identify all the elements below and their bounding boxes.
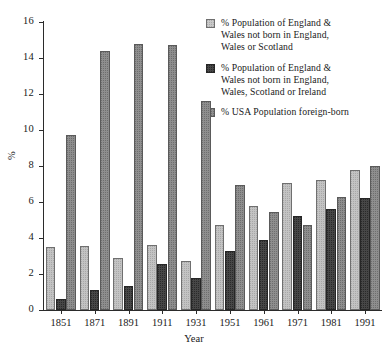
x-tick-mark	[95, 310, 96, 314]
x-tick-mark	[162, 310, 163, 314]
bar	[225, 251, 235, 310]
x-tick-label: 1961	[247, 316, 281, 329]
bar	[157, 264, 167, 310]
y-tick-mark	[39, 94, 43, 95]
bar	[168, 45, 178, 310]
x-tick-label: 1931	[179, 316, 213, 329]
x-tick-label: 1971	[281, 316, 315, 329]
legend-label: % Population of England &Wales not born …	[221, 62, 331, 99]
y-tick-label: 10	[23, 123, 34, 135]
y-tick-label: 14	[23, 51, 34, 63]
x-tick-mark	[331, 310, 332, 314]
x-tick-mark	[129, 310, 130, 314]
x-tick-label: 1891	[112, 316, 146, 329]
x-tick-label: 1871	[78, 316, 112, 329]
legend-item[interactable]: % Population of England &Wales not born …	[206, 17, 386, 54]
bar	[269, 212, 279, 310]
legend-swatch-icon	[206, 19, 215, 28]
legend-label: % USA Population foreign-born	[221, 106, 349, 118]
y-tick-label: 16	[23, 15, 34, 27]
bar	[147, 245, 157, 310]
bar	[201, 101, 211, 310]
x-tick-label: 1911	[145, 316, 179, 329]
bar	[293, 216, 303, 311]
x-tick-mark	[264, 310, 265, 314]
bar	[56, 299, 66, 310]
bar	[316, 180, 326, 310]
bar	[360, 198, 370, 310]
y-tick-mark	[39, 166, 43, 167]
bar	[249, 206, 259, 310]
bar	[134, 44, 144, 310]
bar	[46, 247, 56, 310]
bar	[90, 290, 100, 310]
x-tick-mark	[61, 310, 62, 314]
bar-group	[44, 22, 78, 310]
y-tick-mark	[39, 130, 43, 131]
y-tick-label: 0	[29, 303, 34, 315]
bar-group	[145, 22, 179, 310]
bar-group	[112, 22, 146, 310]
y-tick-label: 12	[23, 87, 34, 99]
bar	[303, 225, 313, 311]
x-tick-mark	[196, 310, 197, 314]
y-tick-label: 6	[29, 195, 34, 207]
bar	[326, 209, 336, 310]
x-tick-label: 1951	[213, 316, 247, 329]
legend-item[interactable]: % USA Population foreign-born	[206, 106, 386, 118]
y-tick-mark	[39, 238, 43, 239]
y-tick-mark	[39, 22, 43, 23]
y-tick-label: 8	[29, 159, 34, 171]
y-tick-mark	[39, 202, 43, 203]
legend-item[interactable]: % Population of England &Wales not born …	[206, 62, 386, 99]
bar	[181, 261, 191, 311]
bar-group	[78, 22, 112, 310]
bar	[337, 197, 347, 310]
x-tick-label: 1981	[314, 316, 348, 329]
legend-swatch-icon	[206, 64, 215, 73]
bar	[113, 258, 123, 310]
x-tick-mark	[365, 310, 366, 314]
bar	[282, 183, 292, 310]
y-tick-label: 4	[29, 231, 34, 243]
x-tick-label: 1991	[348, 316, 382, 329]
bar-chart: 0246810121416 18511871189119111931195119…	[0, 0, 388, 360]
bar	[124, 286, 134, 310]
x-tick-mark	[230, 310, 231, 314]
bar	[80, 246, 90, 310]
legend-label: % Population of England &Wales not born …	[221, 17, 331, 54]
bar	[191, 278, 201, 310]
y-tick-mark	[39, 274, 43, 275]
y-tick-label: 2	[29, 267, 34, 279]
x-tick-label: 1851	[44, 316, 78, 329]
chart-legend: % Population of England &Wales not born …	[206, 17, 386, 118]
bar	[259, 240, 269, 310]
bar	[370, 166, 380, 310]
y-axis-title: %	[6, 151, 17, 160]
bar	[66, 135, 76, 310]
x-tick-mark	[298, 310, 299, 314]
y-tick-mark	[39, 58, 43, 59]
bar	[215, 225, 225, 311]
y-tick-mark	[39, 310, 43, 311]
bar	[235, 185, 245, 310]
bar	[100, 51, 110, 310]
bar	[350, 170, 360, 310]
x-axis-title: Year	[0, 333, 388, 344]
